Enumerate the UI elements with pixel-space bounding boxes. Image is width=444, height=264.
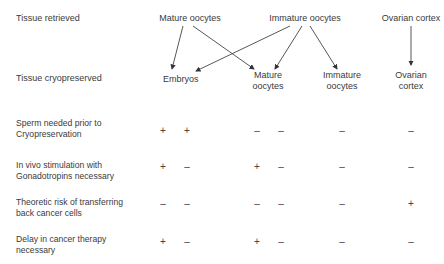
mark-cell: – <box>408 126 414 136</box>
criterion-cancer-risk: Theoretic risk of transferring back canc… <box>16 197 166 219</box>
criterion-delay-line2: necessary <box>16 245 166 256</box>
criterion-sperm: Sperm needed prior to Cryopreservation <box>16 118 166 140</box>
tissue-retrieved-header: Tissue retrieved <box>16 13 80 24</box>
mark-cell: – <box>339 237 345 247</box>
arrow-immature-to-immature <box>310 26 337 69</box>
mark-cell: – <box>184 162 190 172</box>
cryo-mature-oocytes: Mature oocytes <box>252 70 283 92</box>
mark-cell: – <box>408 237 414 247</box>
criterion-stimulation-line1: In vivo stimulation with <box>16 160 166 171</box>
criterion-delay: Delay in cancer therapy necessary <box>16 234 166 256</box>
criterion-cancer-risk-line1: Theoretic risk of transferring <box>16 197 166 208</box>
cryo-cortex-line1: Ovarian <box>395 70 427 81</box>
mark-cell: – <box>339 162 345 172</box>
cryo-embryos-label: Embryos <box>163 74 199 84</box>
arrow-mature-to-embryos <box>172 26 183 69</box>
retrieved-mature-oocytes: Mature oocytes <box>159 13 221 24</box>
mark-cell: – <box>254 199 260 209</box>
arrow-immature-to-embryos <box>196 26 290 71</box>
mark-cell: – <box>278 126 284 136</box>
criterion-delay-line1: Delay in cancer therapy <box>16 234 166 245</box>
cryo-embryos: Embryos <box>163 74 199 85</box>
mark-cell: – <box>278 199 284 209</box>
mark-cell: + <box>184 126 190 136</box>
mark-cell: + <box>254 237 260 247</box>
arrow-immature-to-mature <box>275 26 302 69</box>
mark-cell: – <box>184 199 190 209</box>
mark-cell: – <box>278 237 284 247</box>
retrieved-ovarian-cortex: Ovarian cortex <box>382 13 441 24</box>
mark-cell: + <box>160 237 166 247</box>
mark-cell: – <box>160 199 166 209</box>
mark-cell: + <box>408 199 414 209</box>
cryo-mature-line2: oocytes <box>252 81 283 92</box>
cryo-immature-oocytes: Immature oocytes <box>323 70 361 92</box>
cryo-mature-line1: Mature <box>252 70 283 81</box>
mark-cell: + <box>160 126 166 136</box>
mark-cell: – <box>339 199 345 209</box>
mark-cell: – <box>339 126 345 136</box>
retrieved-immature-oocytes: Immature oocytes <box>269 13 341 24</box>
cryo-immature-line2: oocytes <box>323 81 361 92</box>
mark-cell: + <box>160 162 166 172</box>
mark-cell: – <box>278 162 284 172</box>
mark-cell: – <box>184 237 190 247</box>
criterion-stimulation-line2: Gonadotropins necessary <box>16 171 166 182</box>
cryo-cortex-line2: cortex <box>395 81 427 92</box>
mark-cell: – <box>254 126 260 136</box>
cryo-ovarian-cortex: Ovarian cortex <box>395 70 427 92</box>
criterion-sperm-line1: Sperm needed prior to <box>16 118 166 129</box>
criterion-sperm-line2: Cryopreservation <box>16 129 166 140</box>
criterion-stimulation: In vivo stimulation with Gonadotropins n… <box>16 160 166 182</box>
mark-cell: + <box>254 162 260 172</box>
criterion-cancer-risk-line2: back cancer cells <box>16 208 166 219</box>
tissue-cryopreserved-header: Tissue cryopreserved <box>16 73 102 84</box>
mark-cell: – <box>408 162 414 172</box>
cryo-immature-line1: Immature <box>323 70 361 81</box>
